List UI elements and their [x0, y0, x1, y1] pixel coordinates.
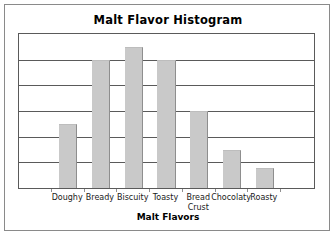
x-axis-title: Malt Flavors: [5, 212, 331, 222]
category-label: Roasty: [239, 193, 288, 203]
axis-tick: [280, 189, 281, 192]
bar: [59, 124, 77, 188]
axis-tick: [149, 189, 150, 192]
bar: [157, 60, 175, 188]
plot-inner: [19, 34, 314, 188]
bar: [92, 60, 110, 188]
bar: [190, 111, 208, 188]
chart-card: Malt Flavor Histogram DoughyBreadyBiscui…: [4, 4, 330, 231]
axis-tick: [51, 189, 52, 192]
axis-tick: [247, 189, 248, 192]
bar: [125, 47, 143, 188]
chart-title: Malt Flavor Histogram: [5, 13, 331, 27]
bar: [223, 150, 241, 189]
plot-area: [18, 33, 315, 189]
bar: [256, 168, 274, 188]
axis-tick: [84, 189, 85, 192]
axis-tick: [182, 189, 183, 192]
axis-tick: [215, 189, 216, 192]
axis-tick: [116, 189, 117, 192]
category-label-line: Roasty: [250, 193, 277, 202]
